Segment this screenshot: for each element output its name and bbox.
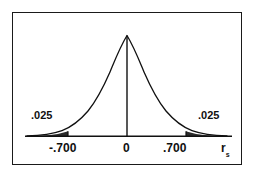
- x-tick-label-negative: -.700: [49, 142, 76, 154]
- figure-root: .025 .025 -.700 0 .700 rs: [0, 0, 253, 177]
- x-axis-variable-subscript: s: [226, 151, 230, 158]
- x-axis-variable-label: rs: [221, 142, 230, 156]
- left-tail-area-label: .025: [31, 110, 52, 121]
- x-axis-variable-letter: r: [221, 141, 226, 155]
- x-tick-label-positive: .700: [163, 142, 186, 154]
- x-tick-label-zero: 0: [123, 142, 130, 154]
- right-tail-area-label: .025: [198, 110, 219, 121]
